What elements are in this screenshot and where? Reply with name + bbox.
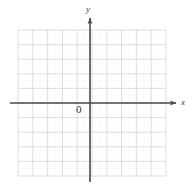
y-axis-label: y xyxy=(86,5,90,14)
coordinate-grid-svg xyxy=(0,0,192,192)
origin-label: 0 xyxy=(76,104,82,115)
x-axis-label: x xyxy=(181,98,185,107)
coordinate-plane-figure: y x 0 xyxy=(0,0,192,192)
